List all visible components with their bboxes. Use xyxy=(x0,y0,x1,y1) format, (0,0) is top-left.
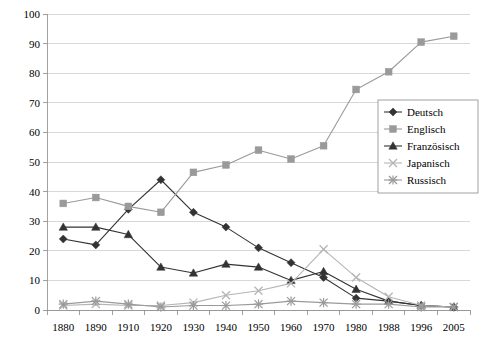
datapoint-deutsch-1940 xyxy=(222,223,230,231)
datapoint-englisch-1950 xyxy=(255,147,262,154)
datapoint-englisch-1940 xyxy=(223,162,230,169)
datapoint-russisch-1960 xyxy=(286,297,295,306)
series-französisch xyxy=(59,223,458,310)
datapoint-englisch-1970 xyxy=(320,142,327,149)
datapoint-französisch-1980 xyxy=(352,285,360,292)
datapoint-russisch-1950 xyxy=(254,299,263,308)
datapoint-russisch-1980 xyxy=(352,299,361,308)
legend-label-japanisch: Japanisch xyxy=(407,157,450,169)
x-axis-label-1950: 1950 xyxy=(248,321,271,333)
x-axis-label-1880: 1880 xyxy=(52,321,75,333)
y-axis-label-20: 20 xyxy=(29,245,41,257)
x-axis-label-1920: 1920 xyxy=(150,321,173,333)
datapoint-englisch-1910 xyxy=(125,203,132,210)
datapoint-englisch-1960 xyxy=(288,156,295,163)
y-axis-label-100: 100 xyxy=(24,8,41,20)
legend-item-russisch[interactable]: Russisch xyxy=(384,174,447,186)
datapoint-englisch-1988 xyxy=(385,68,392,75)
legend-item-deutsch[interactable]: Deutsch xyxy=(384,106,444,118)
datapoint-englisch-1880 xyxy=(60,200,67,207)
datapoint-französisch-1970 xyxy=(319,267,327,274)
datapoint-englisch-1980 xyxy=(353,86,360,93)
x-axis-label-1996: 1996 xyxy=(410,321,433,333)
y-axis-label-80: 80 xyxy=(29,67,41,79)
datapoint-russisch-1970 xyxy=(319,298,328,307)
series-line-deutsch xyxy=(63,180,453,307)
datapoint-russisch-1940 xyxy=(221,301,230,310)
legend-marker-russisch xyxy=(388,175,397,184)
datapoint-französisch-1940 xyxy=(222,260,230,267)
datapoint-russisch-1910 xyxy=(124,299,133,308)
datapoint-russisch-1930 xyxy=(189,301,198,310)
x-axis-label-1970: 1970 xyxy=(313,321,336,333)
datapoint-russisch-1988 xyxy=(384,299,393,308)
datapoint-englisch-1930 xyxy=(190,169,197,176)
y-axis-label-70: 70 xyxy=(29,97,41,109)
y-axis-label-30: 30 xyxy=(29,215,41,227)
legend-label-englisch: Englisch xyxy=(407,123,446,135)
series-line-japanisch xyxy=(63,249,453,307)
datapoint-russisch-1880 xyxy=(59,299,68,308)
x-axis-label-1910: 1910 xyxy=(117,321,140,333)
y-axis-label-0: 0 xyxy=(35,304,41,316)
y-axis-label-60: 60 xyxy=(29,126,41,138)
x-axis-tick-labels: 1880189019101920193019401950196019701980… xyxy=(52,321,465,333)
datapoint-deutsch-1960 xyxy=(287,259,295,267)
y-axis-label-90: 90 xyxy=(29,38,41,50)
x-axis-label-1930: 1930 xyxy=(182,321,205,333)
x-axis-label-1960: 1960 xyxy=(280,321,303,333)
datapoint-japanisch-1970 xyxy=(320,245,328,253)
chart-canvas: 0102030405060708090100 18801890191019201… xyxy=(0,0,484,340)
legend-marker-englisch xyxy=(390,126,397,133)
y-axis-label-40: 40 xyxy=(29,186,41,198)
y-axis-tick-labels: 0102030405060708090100 xyxy=(24,8,41,316)
y-axis-label-10: 10 xyxy=(29,274,41,286)
legend-label-deutsch: Deutsch xyxy=(407,106,444,118)
x-axis-label-2005: 2005 xyxy=(443,321,466,333)
line-chart: 0102030405060708090100 18801890191019201… xyxy=(0,0,484,340)
chart-legend: DeutschEnglischFranzösischJapanischRussi… xyxy=(378,100,478,193)
datapoint-englisch-2005 xyxy=(450,33,457,40)
y-axis-label-50: 50 xyxy=(29,156,41,168)
x-axis-label-1890: 1890 xyxy=(85,321,108,333)
legend-label-russisch: Russisch xyxy=(407,174,447,186)
x-axis-label-1988: 1988 xyxy=(378,321,401,333)
datapoint-russisch-1920 xyxy=(156,302,165,311)
x-axis-label-1980: 1980 xyxy=(345,321,368,333)
datapoint-russisch-2005 xyxy=(449,302,458,311)
legend-label-französisch: Französisch xyxy=(407,140,460,152)
datapoint-englisch-1890 xyxy=(92,194,99,201)
datapoint-englisch-1996 xyxy=(418,39,425,46)
datapoint-deutsch-1880 xyxy=(59,235,67,243)
datapoint-russisch-1996 xyxy=(417,302,426,311)
datapoint-englisch-1920 xyxy=(157,209,164,216)
datapoint-russisch-1890 xyxy=(91,297,100,306)
x-axis-label-1940: 1940 xyxy=(215,321,238,333)
